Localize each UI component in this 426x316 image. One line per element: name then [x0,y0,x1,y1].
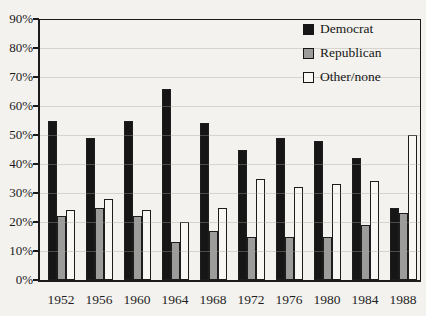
bar-democrat-1984 [352,158,361,280]
y-tick-80% [33,47,39,49]
y-tick-label-90%: 90% [0,11,33,27]
bar-republican-1976 [285,237,294,281]
bar-other-none-1984 [370,181,379,280]
gridline-40 [40,164,420,165]
party-identification-bar-chart: 1952195619601964196819721976198019841988… [0,0,426,316]
y-tick-70% [33,76,39,78]
gridline-20 [40,222,420,223]
bar-democrat-1960 [124,121,133,281]
bar-democrat-1988 [390,208,399,281]
bar-republican-1988 [399,213,408,280]
bar-other-none-1952 [66,210,75,280]
y-tick-label-30%: 30% [0,185,33,201]
legend-swatch-democrat-icon [303,24,314,35]
legend-item-democrat: Democrat [303,22,381,36]
bar-other-none-1968 [218,208,227,281]
bar-republican-1956 [95,208,104,281]
bar-republican-1964 [171,242,180,280]
bar-democrat-1980 [314,141,323,280]
y-tick-30% [33,192,39,194]
y-tick-90% [33,18,39,20]
legend-label-democrat: Democrat [320,22,373,36]
bar-other-none-1956 [104,199,113,280]
y-tick-label-60%: 60% [0,98,33,114]
bar-other-none-1980 [332,184,341,280]
bar-democrat-1952 [48,121,57,281]
bar-democrat-1968 [200,123,209,280]
y-tick-10% [33,250,39,252]
y-tick-50% [33,134,39,136]
gridline-10 [40,251,420,252]
y-axis-line [38,19,40,282]
plot-frame-right [420,19,421,282]
gridline-60 [40,106,420,107]
y-tick-40% [33,163,39,165]
bar-republican-1980 [323,237,332,281]
y-tick-60% [33,105,39,107]
y-tick-label-50%: 50% [0,127,33,143]
legend-swatch-other-icon [303,72,314,83]
legend: Democrat Republican Other/none [303,22,381,84]
gridline-50 [40,135,420,136]
plot-frame-top [38,19,421,20]
y-tick-label-20%: 20% [0,214,33,230]
bar-republican-1972 [247,237,256,281]
bar-democrat-1956 [86,138,95,280]
y-tick-label-40%: 40% [0,156,33,172]
y-tick-label-0%: 0% [0,272,33,288]
gridline-30 [40,193,420,194]
legend-label-other: Other/none [320,70,381,84]
bar-republican-1968 [209,231,218,280]
bar-democrat-1972 [238,150,247,281]
y-tick-label-70%: 70% [0,69,33,85]
bar-democrat-1976 [276,138,285,280]
legend-swatch-republican-icon [303,48,314,59]
bar-republican-1960 [133,216,142,280]
y-tick-label-10%: 10% [0,243,33,259]
bar-other-none-1988 [408,135,417,280]
legend-label-republican: Republican [320,46,381,60]
year-label-1988: 1988 [380,292,426,308]
bar-other-none-1960 [142,210,151,280]
bar-other-none-1976 [294,187,303,280]
y-tick-20% [33,221,39,223]
bar-republican-1952 [57,216,66,280]
x-axis-line [38,280,421,282]
bar-republican-1984 [361,225,370,280]
y-tick-0% [33,279,39,281]
y-tick-label-80%: 80% [0,40,33,56]
legend-item-other: Other/none [303,70,381,84]
legend-item-republican: Republican [303,46,381,60]
